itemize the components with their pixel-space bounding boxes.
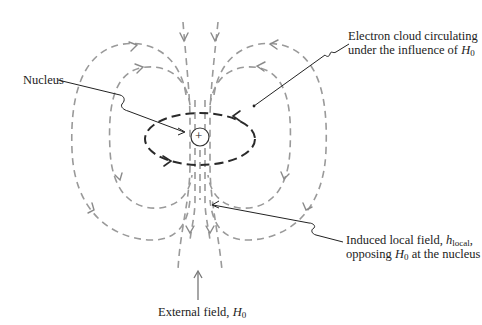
induced-field-label-line1: Induced local field, hlocal, <box>346 233 480 247</box>
inner-right-field-loop <box>208 67 290 208</box>
induced-field-label-line2: opposing H0 at the nucleus <box>346 247 480 261</box>
induced-field-label: Induced local field, hlocal, opposing H0… <box>346 233 480 261</box>
induced-field-leader-line <box>213 205 343 242</box>
inner-left-field-loop <box>110 67 192 208</box>
h0-symbol: H <box>461 43 470 57</box>
h0-subscript: 0 <box>470 48 475 58</box>
electron-cloud-text: under the influence of <box>348 43 461 57</box>
at-nucleus-text: at the nucleus <box>409 247 481 261</box>
h0-symbol: H <box>395 247 404 261</box>
h0-symbol: H <box>233 305 242 319</box>
electron-cloud-label-line2: under the influence of H0 <box>348 43 478 57</box>
induced-field-diagram: + Nucleus Electron cloud circulating und… <box>0 0 482 325</box>
nucleus-symbol: + <box>195 129 202 143</box>
induced-text: Induced local field, <box>346 233 446 247</box>
electron-cloud-leader-dot <box>253 105 256 108</box>
nucleus-label: Nucleus <box>23 73 64 87</box>
external-field-text: External field, <box>158 305 233 319</box>
induced-comma: , <box>470 233 473 247</box>
nucleus-leader-line <box>58 80 184 132</box>
external-field-label: External field, H0 <box>158 305 246 319</box>
electron-cloud-leader-line <box>254 44 349 106</box>
orbit-arrowhead-bottom <box>163 156 171 166</box>
opposing-text: opposing <box>346 247 395 261</box>
electron-cloud-label-line1: Electron cloud circulating <box>348 29 478 43</box>
electron-cloud-label: Electron cloud circulating under the inf… <box>348 29 478 57</box>
h0-subscript: 0 <box>242 310 247 320</box>
